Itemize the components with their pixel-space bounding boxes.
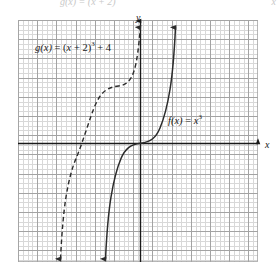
g-tail: + 4 xyxy=(95,42,111,53)
figure-root: g(x) = (x + 2) x y x xyxy=(0,0,280,279)
f-exponent: 3 xyxy=(198,113,202,121)
g-eq: = xyxy=(52,42,63,53)
g-body: (x + 2) xyxy=(63,42,91,53)
g-arg: (x) xyxy=(40,42,52,53)
function-label-f: f(x) = x3 xyxy=(168,113,202,126)
f-arg: (x) xyxy=(171,115,183,126)
function-label-g: g(x) = (x + 2)3 + 4 xyxy=(35,40,111,53)
x-axis-label: x xyxy=(265,139,269,150)
y-axis-label: y xyxy=(136,12,140,23)
f-eq: = xyxy=(183,115,194,126)
